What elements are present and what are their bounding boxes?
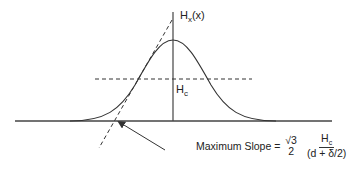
fraction-hc-over-d: Hc (d + δ/2) bbox=[305, 133, 348, 159]
fraction-sqrt3-over-2: √3 2 bbox=[283, 135, 299, 158]
max-slope-formula: Maximum Slope = √3 2 Hc (d + δ/2) bbox=[196, 133, 351, 159]
formula-prefix: Maximum Slope = bbox=[196, 140, 280, 152]
threshold-label: Hc bbox=[176, 83, 188, 98]
y-axis-label: Hx(x) bbox=[180, 9, 205, 24]
tangent-dashed-line bbox=[99, 20, 172, 148]
pointer-arrow bbox=[119, 122, 165, 150]
